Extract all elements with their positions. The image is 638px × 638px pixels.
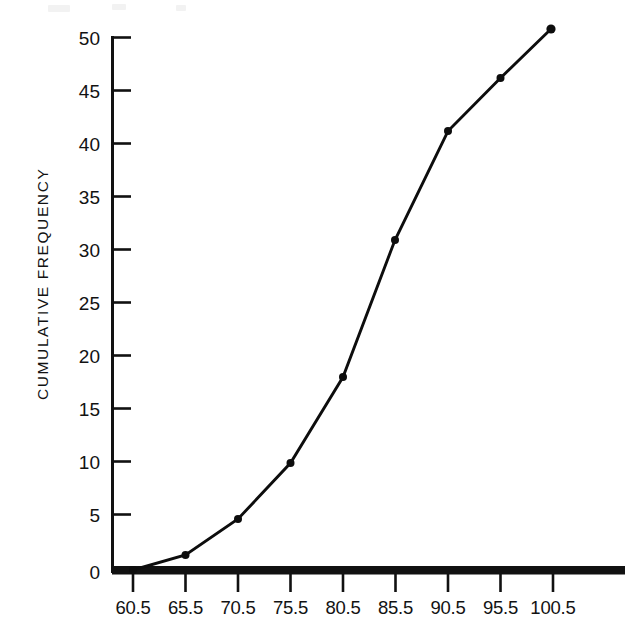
data-point xyxy=(234,515,242,523)
data-point xyxy=(391,236,399,244)
cumulative-frequency-chart: 50 45 40 35 30 25 20 15 10 5 0 60.5 xyxy=(0,0,638,638)
y-tick-label: 25 xyxy=(79,293,100,314)
x-tick-label: 95.5 xyxy=(483,597,518,618)
data-point xyxy=(497,74,505,82)
data-point xyxy=(287,459,295,467)
y-tick-label: 30 xyxy=(79,240,100,261)
y-tick-label: 45 xyxy=(79,81,100,102)
data-point xyxy=(129,566,137,574)
data-point-markers xyxy=(129,24,556,574)
y-tick-label: 0 xyxy=(89,562,100,583)
x-tick-label: 70.5 xyxy=(220,597,255,618)
y-tick-label: 35 xyxy=(79,187,100,208)
y-tick-labels: 50 45 40 35 30 25 20 15 10 5 0 xyxy=(79,28,100,583)
y-tick-label: 10 xyxy=(79,452,100,473)
data-line xyxy=(133,29,551,570)
data-point xyxy=(182,551,190,559)
y-tick-label: 40 xyxy=(79,134,100,155)
x-tick-label: 80.5 xyxy=(325,597,360,618)
y-tick-marks xyxy=(112,38,131,515)
x-tick-label: 100.5 xyxy=(530,597,575,618)
x-tick-marks xyxy=(133,574,553,592)
data-point xyxy=(546,24,555,33)
y-tick-label: 5 xyxy=(89,505,100,526)
x-tick-label: 90.5 xyxy=(430,597,465,618)
data-point xyxy=(444,127,452,135)
chart-page: 50 45 40 35 30 25 20 15 10 5 0 60.5 xyxy=(0,0,638,638)
x-tick-label: 85.5 xyxy=(378,597,413,618)
x-tick-label: 60.5 xyxy=(115,597,150,618)
x-axis-line xyxy=(112,566,625,575)
y-tick-label: 50 xyxy=(79,28,100,49)
x-tick-labels: 60.5 65.5 70.5 75.5 80.5 85.5 90.5 95.5 … xyxy=(115,597,575,618)
data-point xyxy=(339,373,347,381)
y-tick-label: 20 xyxy=(79,346,100,367)
y-axis-title: CUMULATIVE FREQUENCY xyxy=(34,168,51,400)
y-tick-label: 15 xyxy=(79,399,100,420)
x-tick-label: 75.5 xyxy=(273,597,308,618)
x-tick-label: 65.5 xyxy=(168,597,203,618)
